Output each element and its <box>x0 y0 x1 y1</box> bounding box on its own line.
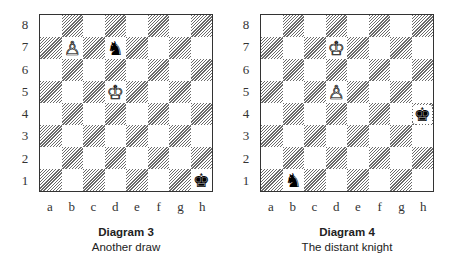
square-c1 <box>304 169 326 191</box>
square-b3 <box>62 125 84 147</box>
file-label: a <box>39 199 61 215</box>
square-h7 <box>412 37 434 59</box>
chessboard: ♔♙♚♞ <box>260 14 434 192</box>
rank-label: 6 <box>239 59 253 81</box>
square-h1 <box>412 169 434 191</box>
square-f4 <box>148 103 170 125</box>
file-label: f <box>148 199 170 215</box>
square-a5 <box>261 81 283 103</box>
square-f2 <box>369 147 391 169</box>
square-d2 <box>105 147 127 169</box>
square-e5 <box>126 81 148 103</box>
file-label: b <box>282 199 304 215</box>
square-a7 <box>40 37 62 59</box>
square-h4: ♚ <box>412 103 434 125</box>
square-e5 <box>347 81 369 103</box>
square-f3 <box>369 125 391 147</box>
square-h7 <box>191 37 213 59</box>
square-b6 <box>283 59 305 81</box>
square-f6 <box>369 59 391 81</box>
square-f1 <box>148 169 170 191</box>
file-label: g <box>170 199 192 215</box>
square-d3 <box>326 125 348 147</box>
square-b7 <box>283 37 305 59</box>
diagram-subtitle: The distant knight <box>260 241 434 253</box>
square-d8 <box>326 15 348 37</box>
square-f3 <box>148 125 170 147</box>
square-e2 <box>347 147 369 169</box>
square-a8 <box>261 15 283 37</box>
square-e1 <box>126 169 148 191</box>
rank-label: 2 <box>239 148 253 170</box>
square-e3 <box>347 125 369 147</box>
square-g7 <box>390 37 412 59</box>
square-f5 <box>148 81 170 103</box>
square-d4 <box>105 103 127 125</box>
rank-label: 1 <box>18 170 32 192</box>
square-b1 <box>62 169 84 191</box>
square-c8 <box>83 15 105 37</box>
square-g3 <box>169 125 191 147</box>
square-a3 <box>261 125 283 147</box>
square-h1: ♚ <box>191 169 213 191</box>
square-g8 <box>390 15 412 37</box>
square-c4 <box>83 103 105 125</box>
square-d1 <box>326 169 348 191</box>
square-c4 <box>304 103 326 125</box>
square-b8 <box>62 15 84 37</box>
diagram-3: 8 7 6 5 4 3 2 1 ♙♞♔♚ a b c d e f g h Dia… <box>0 0 228 264</box>
square-c8 <box>304 15 326 37</box>
square-f6 <box>148 59 170 81</box>
square-b3 <box>283 125 305 147</box>
rank-label: 3 <box>18 125 32 147</box>
square-h6 <box>191 59 213 81</box>
square-h5 <box>412 81 434 103</box>
square-f1 <box>369 169 391 191</box>
square-h2 <box>191 147 213 169</box>
square-g8 <box>169 15 191 37</box>
file-label: h <box>191 199 213 215</box>
square-e7 <box>126 37 148 59</box>
square-h5 <box>191 81 213 103</box>
rank-label: 8 <box>18 14 32 36</box>
square-b8 <box>283 15 305 37</box>
square-c6 <box>83 59 105 81</box>
rank-label: 4 <box>239 103 253 125</box>
square-g3 <box>390 125 412 147</box>
file-label: b <box>61 199 83 215</box>
square-g6 <box>390 59 412 81</box>
file-labels: a b c d e f g h <box>260 199 434 215</box>
rank-labels: 8 7 6 5 4 3 2 1 <box>239 14 253 192</box>
square-b4 <box>283 103 305 125</box>
file-labels: a b c d e f g h <box>39 199 213 215</box>
rank-label: 5 <box>239 81 253 103</box>
square-d7: ♔ <box>326 37 348 59</box>
square-g6 <box>169 59 191 81</box>
square-d1 <box>105 169 127 191</box>
square-d6 <box>105 59 127 81</box>
square-g4 <box>169 103 191 125</box>
square-e7 <box>347 37 369 59</box>
black-king-icon: ♚ <box>413 105 432 124</box>
file-label: a <box>260 199 282 215</box>
square-a3 <box>40 125 62 147</box>
square-a7 <box>261 37 283 59</box>
square-e2 <box>126 147 148 169</box>
square-c3 <box>83 125 105 147</box>
square-g7 <box>169 37 191 59</box>
square-h6 <box>412 59 434 81</box>
square-g2 <box>390 147 412 169</box>
square-f7 <box>148 37 170 59</box>
file-label: c <box>83 199 105 215</box>
square-b1: ♞ <box>283 169 305 191</box>
square-e8 <box>347 15 369 37</box>
square-d6 <box>326 59 348 81</box>
diagram-subtitle: Another draw <box>39 241 213 253</box>
rank-label: 7 <box>239 36 253 58</box>
square-d5: ♙ <box>326 81 348 103</box>
square-c1 <box>83 169 105 191</box>
square-h2 <box>412 147 434 169</box>
rank-labels: 8 7 6 5 4 3 2 1 <box>18 14 32 192</box>
white-king-icon: ♔ <box>328 39 345 58</box>
square-c2 <box>304 147 326 169</box>
